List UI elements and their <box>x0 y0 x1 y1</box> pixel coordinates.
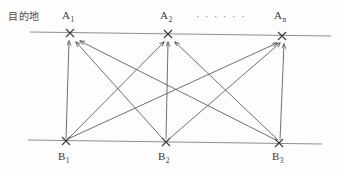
edge-b3-a1 <box>80 41 276 140</box>
node-marker-an <box>278 32 286 40</box>
node-label-b3-sub: 3 <box>280 156 284 165</box>
bipartite-graph-diagram: 目的地 · · · · · · A1 A2 An B1 B2 B3 <box>0 0 338 175</box>
node-label-a2-sub: 2 <box>168 15 172 24</box>
node-label-a1-base: A <box>62 9 70 21</box>
edge-group-b3 <box>80 41 284 140</box>
edge-b3-a2 <box>175 42 278 140</box>
node-label-b3: B3 <box>272 150 284 162</box>
node-label-b2: B2 <box>158 150 170 162</box>
node-label-b3-base: B <box>272 150 280 162</box>
edge-b2-an <box>169 43 280 139</box>
node-label-a1-sub: 1 <box>70 15 74 24</box>
edge-b2-a2 <box>166 42 168 139</box>
node-label-a2: A2 <box>160 9 172 21</box>
node-label-an: An <box>274 9 286 21</box>
node-label-b2-base: B <box>158 150 166 162</box>
node-label-an-sub: n <box>282 15 286 24</box>
node-label-b1-base: B <box>58 150 66 162</box>
graph-canvas <box>0 0 338 175</box>
axis-title-destination: 目的地 <box>8 8 40 23</box>
node-label-an-base: A <box>274 9 282 21</box>
node-label-b2-sub: 2 <box>166 156 170 165</box>
edge-b1-a1 <box>66 41 69 139</box>
edge-b3-an <box>280 44 284 140</box>
edge-b1-an <box>70 43 277 138</box>
node-label-a1: A1 <box>62 9 74 21</box>
node-label-b1-sub: 1 <box>66 156 70 165</box>
node-label-b1: B1 <box>58 150 70 162</box>
node-label-a2-base: A <box>160 9 168 21</box>
ellipsis-between-a2-an: · · · · · · <box>196 11 246 22</box>
